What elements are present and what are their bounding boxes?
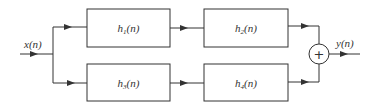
input-label: x(n) bbox=[23, 38, 42, 51]
plus-icon: + bbox=[314, 47, 325, 62]
arrow-icon bbox=[301, 79, 309, 85]
block-h4-label: h4(n) bbox=[235, 77, 257, 91]
input-line bbox=[20, 51, 53, 57]
block-diagram: x(n) h1(n) h3(n) h2(n) h4(n) + y(n) bbox=[0, 0, 378, 108]
h2-to-sum-line bbox=[288, 26, 319, 44]
arrow-icon bbox=[340, 51, 348, 57]
block-h2-label: h2(n) bbox=[235, 22, 257, 36]
block-h1-label: h1(n) bbox=[118, 22, 140, 36]
arrow-icon bbox=[30, 51, 38, 57]
arrow-icon bbox=[64, 24, 72, 30]
block-h3-label: h3(n) bbox=[118, 77, 140, 91]
output-label: y(n) bbox=[335, 37, 354, 50]
arrow-icon bbox=[301, 23, 309, 29]
arrow-icon bbox=[67, 80, 75, 86]
arrow-icon bbox=[180, 25, 188, 31]
arrow-icon bbox=[180, 80, 188, 86]
h4-to-sum-line bbox=[288, 64, 319, 82]
